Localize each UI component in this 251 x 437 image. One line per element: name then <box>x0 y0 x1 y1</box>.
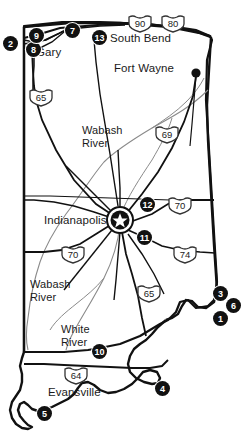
shield-i64: 64 <box>63 366 89 385</box>
map-marker-12[interactable]: 12 <box>140 197 155 212</box>
map-marker-6[interactable]: 6 <box>226 298 241 313</box>
river-label-line1: Wabash <box>30 278 71 291</box>
shield-i69: 69 <box>154 125 180 144</box>
map-marker-4[interactable]: 4 <box>155 381 170 396</box>
river-label-line2: River <box>82 137 123 150</box>
map-marker-11[interactable]: 11 <box>137 230 152 245</box>
highway-i64 <box>24 360 168 368</box>
indiana-map: South Bend Fort Wayne Gary Indianapolis … <box>0 0 251 437</box>
shield-i80: 80 <box>160 14 186 33</box>
map-marker-13[interactable]: 13 <box>92 30 107 45</box>
river-label-wabash-south: Wabash River <box>30 278 71 303</box>
map-marker-5[interactable]: 5 <box>37 406 52 421</box>
shield-number: 90 <box>127 14 153 33</box>
shield-number: 65 <box>28 88 54 107</box>
map-marker-2[interactable]: 2 <box>3 36 18 51</box>
shield-number: 64 <box>63 366 89 385</box>
shield-number: 80 <box>160 14 186 33</box>
river-label-line2: River <box>30 291 71 304</box>
city-label-fort-wayne: Fort Wayne <box>114 62 174 74</box>
river-label-white: White River <box>61 323 90 348</box>
map-marker-3[interactable]: 3 <box>213 286 228 301</box>
map-marker-7[interactable]: 7 <box>65 23 80 38</box>
river-label-line1: White <box>61 323 90 336</box>
city-label-south-bend: South Bend <box>110 32 171 44</box>
map-marker-8[interactable]: 8 <box>26 42 41 57</box>
shield-number: 70 <box>60 245 86 264</box>
shield-number: 65 <box>136 284 162 303</box>
shield-i90: 90 <box>127 14 153 33</box>
shield-i70-west: 70 <box>60 245 86 264</box>
shield-i70-east: 70 <box>167 196 193 215</box>
river-label-line1: Wabash <box>82 124 123 137</box>
map-marker-9[interactable]: 9 <box>29 28 44 43</box>
shield-number: 69 <box>154 125 180 144</box>
map-marker-1[interactable]: 1 <box>213 311 228 326</box>
map-marker-10[interactable]: 10 <box>92 344 107 359</box>
shield-number: 74 <box>172 245 198 264</box>
shield-i65-north: 65 <box>28 88 54 107</box>
shield-i65-south: 65 <box>136 284 162 303</box>
city-label-indianapolis: Indianapolis <box>44 214 107 226</box>
city-label-evansville: Evansville <box>48 386 101 398</box>
shield-i74: 74 <box>172 245 198 264</box>
city-dot-fort-wayne <box>191 68 200 77</box>
river-label-line2: River <box>61 336 90 349</box>
river-label-wabash-north: Wabash River <box>82 124 123 149</box>
shield-number: 70 <box>167 196 193 215</box>
